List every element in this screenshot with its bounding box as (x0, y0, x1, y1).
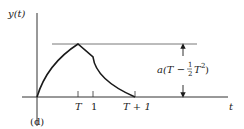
magnitude-annotation: a(T − 1 2 T 2 ) (157, 61, 209, 78)
x-axis-label: t (229, 101, 234, 112)
annotation-frac-den: 2 (188, 70, 192, 78)
annotation-close: ) (205, 64, 209, 75)
annotation-prefix: a(T − (157, 64, 185, 75)
annotation-frac-num: 1 (188, 61, 192, 69)
tick-label-T-plus-1: T + 1 (123, 101, 151, 112)
tick-label-T: T (75, 101, 83, 112)
response-diagram: y(t) t T 1 T + 1 (d) a(T − 1 2 T 2 ) (0, 0, 244, 129)
panel-label: (d) (30, 116, 44, 127)
y-axis-label: y(t) (7, 8, 26, 19)
response-curve (37, 44, 135, 97)
tick-label-1: 1 (91, 101, 97, 112)
